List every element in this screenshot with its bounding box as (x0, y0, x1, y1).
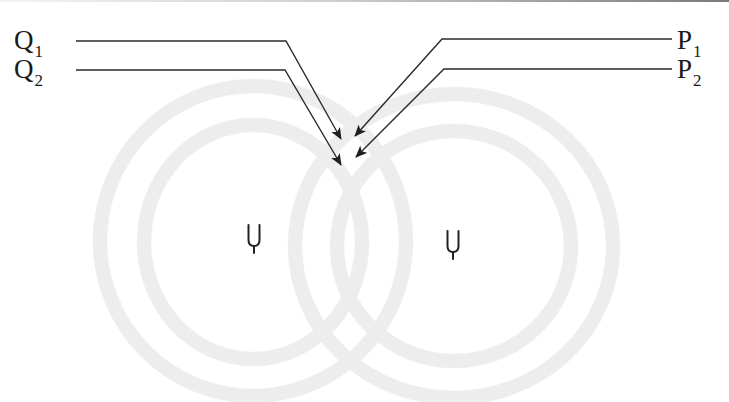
label-p1-base: P (677, 25, 692, 55)
label-q2: Q2 (14, 56, 43, 83)
diagram-graphics (0, 0, 729, 402)
label-p1: P1 (677, 27, 702, 54)
ray-q2 (76, 70, 341, 165)
label-p2-sub: 2 (693, 71, 702, 90)
label-q2-base: Q (14, 54, 34, 84)
label-q2-sub: 2 (35, 71, 44, 90)
label-q1-base: Q (14, 25, 34, 55)
label-q1: Q1 (14, 27, 43, 54)
right-tuning-fork-icon (448, 231, 459, 259)
diagram-canvas: Q1 Q2 P1 P2 (0, 0, 729, 402)
label-p2: P2 (677, 56, 702, 83)
wavefront-texture (100, 86, 613, 398)
label-p2-base: P (677, 54, 692, 84)
ray-p1 (355, 39, 672, 136)
left-tuning-fork-icon (249, 225, 260, 253)
